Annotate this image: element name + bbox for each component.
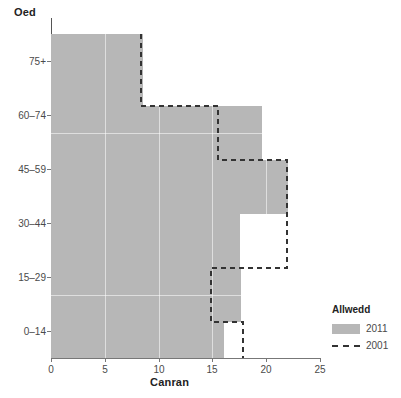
plot-area xyxy=(51,18,320,358)
x-axis-tick-label-0: 0 xyxy=(48,364,54,375)
x-axis-tick-5 xyxy=(105,358,106,362)
chart-figure: Oed Canran 0 5 10 15 20 25 75+ 60–74 45–… xyxy=(0,0,401,398)
y-axis-tick-label-60-74: 60–74 xyxy=(18,110,46,121)
gridline-vertical-5 xyxy=(105,18,106,358)
x-axis-tick-label-25: 25 xyxy=(314,364,325,375)
legend-item-2011[interactable]: 2011 xyxy=(332,321,398,336)
gridline-vertical-15 xyxy=(212,18,213,358)
x-axis-title: Canran xyxy=(150,376,189,388)
legend-item-2001[interactable]: 2001 xyxy=(332,338,398,353)
x-axis-tick-25 xyxy=(320,358,321,362)
legend: Allwedd 2011 2001 xyxy=(332,304,398,355)
x-axis-tick-label-10: 10 xyxy=(153,364,164,375)
y-axis-tick-label-45-59: 45–59 xyxy=(18,164,46,175)
legend-swatch-dash-icon xyxy=(332,345,360,347)
x-axis-tick-label-20: 20 xyxy=(260,364,271,375)
x-axis-line xyxy=(51,358,321,359)
legend-label-2011: 2011 xyxy=(366,323,388,334)
y-axis-title: Oed xyxy=(14,6,36,18)
legend-label-2001: 2001 xyxy=(366,340,388,351)
y-axis-tick-label-0-14: 0–14 xyxy=(24,326,46,337)
y-axis-tick-label-75plus: 75+ xyxy=(29,56,46,67)
gridline-vertical-10 xyxy=(159,18,160,358)
x-axis-tick-15 xyxy=(212,358,213,362)
bar-2011-0-14 xyxy=(51,322,224,358)
x-axis-tick-10 xyxy=(159,358,160,362)
x-axis-tick-0 xyxy=(51,358,52,362)
gridline-vertical-20 xyxy=(266,18,267,358)
y-axis-tick-label-15-29: 15–29 xyxy=(18,272,46,283)
bar-2011-75plus xyxy=(51,34,143,106)
x-axis-tick-label-15: 15 xyxy=(206,364,217,375)
gridline-horizontal-2 xyxy=(51,295,320,296)
y-axis-tick-label-30-44: 30–44 xyxy=(18,218,46,229)
x-axis-tick-label-5: 5 xyxy=(102,364,108,375)
legend-swatch-fill-icon xyxy=(332,324,360,334)
bar-2011-45-59 xyxy=(51,160,288,214)
legend-title: Allwedd xyxy=(332,304,398,315)
x-axis-tick-20 xyxy=(266,358,267,362)
gridline-horizontal-1 xyxy=(51,133,320,134)
